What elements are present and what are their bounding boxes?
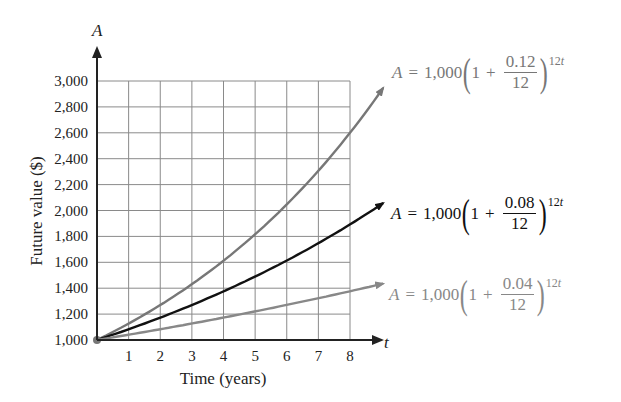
eq-numerator: 0.12: [504, 52, 538, 73]
y-tick-label: 2,400: [54, 151, 88, 167]
curve-line: [97, 284, 383, 340]
eq-exp-num: 12: [548, 195, 560, 209]
x-axis-arrow-icon: [372, 335, 384, 345]
eq-lhs: A: [389, 285, 399, 305]
eq-denominator: 12: [509, 295, 526, 315]
curve-line: [97, 88, 383, 340]
eq-plus: +: [485, 204, 495, 224]
x-tick-labels: 12345678: [125, 348, 354, 364]
left-paren-icon: (: [460, 275, 468, 315]
eq-numerator: 0.04: [501, 274, 535, 295]
eq-principal: 1,000: [424, 63, 462, 83]
eq-lhs: A: [392, 63, 402, 83]
equation-label-12-percent: A = 1,000 ( 1 + 0.1212 ) 12t: [392, 52, 564, 93]
eq-exp-var: t: [558, 276, 561, 290]
eq-one: 1: [469, 285, 478, 305]
y-tick-labels: 1,0001,2001,4001,6001,8002,0002,2002,400…: [54, 73, 88, 348]
x-tick-label: 3: [188, 348, 196, 364]
y-axis-arrow-icon: [92, 46, 102, 58]
x-tick-label: 8: [346, 348, 354, 364]
eq-plus: +: [486, 63, 496, 83]
equation-label-8-percent: A = 1,000 ( 1 + 0.0812 ) 12t: [391, 193, 563, 234]
eq-one: 1: [471, 204, 480, 224]
x-tick-label: 1: [125, 348, 133, 364]
grid-lines: [97, 81, 350, 340]
y-tick-label: 2,600: [54, 125, 88, 141]
y-axis-variable: A: [91, 21, 103, 40]
eq-principal: 1,000: [423, 204, 461, 224]
eq-lhs: A: [391, 204, 401, 224]
equation-label-4-percent: A = 1,000 ( 1 + 0.0412 ) 12t: [389, 274, 561, 315]
y-tick-label: 1,400: [54, 280, 88, 296]
x-tick-label: 4: [220, 348, 228, 364]
eq-one: 1: [472, 63, 481, 83]
eq-fraction: 0.0812: [503, 193, 537, 234]
eq-exponent: 12t: [549, 54, 564, 69]
eq-equals: =: [405, 285, 415, 305]
y-tick-label: 1,800: [54, 228, 88, 244]
eq-numerator: 0.08: [503, 193, 537, 214]
eq-principal: 1,000: [421, 285, 459, 305]
axes: [92, 46, 384, 345]
y-tick-label: 2,800: [54, 99, 88, 115]
left-paren-icon: (: [463, 53, 471, 93]
x-tick-label: 6: [283, 348, 291, 364]
data-curves: [93, 88, 383, 344]
eq-equals: =: [408, 63, 418, 83]
left-paren-icon: (: [462, 194, 470, 234]
eq-fraction: 0.1212: [504, 52, 538, 93]
y-axis-label: Future value ($): [27, 156, 46, 266]
eq-exponent: 12t: [548, 195, 563, 210]
y-tick-label: 2,000: [54, 203, 88, 219]
right-paren-icon: ): [537, 275, 545, 315]
y-tick-label: 3,000: [54, 73, 88, 89]
x-tick-label: 7: [315, 348, 323, 364]
y-tick-label: 2,200: [54, 177, 88, 193]
x-tick-label: 2: [157, 348, 165, 364]
y-tick-label: 1,000: [54, 332, 88, 348]
eq-denominator: 12: [511, 214, 528, 234]
y-tick-label: 1,200: [54, 306, 88, 322]
eq-equals: =: [407, 204, 417, 224]
right-paren-icon: ): [540, 53, 548, 93]
eq-plus: +: [483, 285, 493, 305]
x-axis-variable: t: [384, 333, 390, 352]
eq-exp-var: t: [560, 195, 563, 209]
y-tick-label: 1,600: [54, 254, 88, 270]
x-tick-label: 5: [251, 348, 259, 364]
eq-fraction: 0.0412: [501, 274, 535, 315]
eq-exp-num: 12: [546, 276, 558, 290]
eq-denominator: 12: [512, 73, 529, 93]
eq-exponent: 12t: [546, 276, 561, 291]
curve-line: [97, 203, 383, 340]
x-axis-label: Time (years): [180, 369, 267, 388]
right-paren-icon: ): [539, 194, 547, 234]
eq-exp-var: t: [561, 54, 564, 68]
eq-exp-num: 12: [549, 54, 561, 68]
